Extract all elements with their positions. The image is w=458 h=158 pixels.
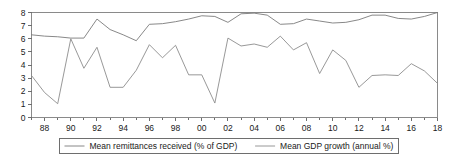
- x-tick-label: 06: [276, 123, 286, 133]
- y-tick-label: 1: [21, 99, 26, 109]
- x-tick-label: 02: [223, 123, 233, 133]
- y-tick-label: 8: [21, 8, 26, 18]
- y-tick-label: 6: [21, 34, 26, 44]
- x-tick-label: 12: [354, 123, 364, 133]
- y-tick-label: 7: [21, 21, 26, 31]
- x-tick-label: 96: [145, 123, 155, 133]
- chart-figure: 012345678 889092949698000204060810121416…: [0, 0, 458, 158]
- data-series-group: [32, 13, 438, 104]
- x-tick-label: 08: [302, 123, 312, 133]
- x-tick-label: 10: [328, 123, 338, 133]
- x-tick-label: 00: [197, 123, 207, 133]
- x-tick-label: 14: [380, 123, 390, 133]
- plot-frame: [32, 13, 438, 118]
- series-line-gdp-growth: [32, 36, 438, 104]
- line-chart: 012345678 889092949698000204060810121416…: [0, 0, 458, 158]
- legend-label-gdp-growth: Mean GDP growth (annual %): [280, 141, 393, 151]
- x-tick-label: 18: [433, 123, 443, 133]
- y-tick-label: 2: [21, 86, 26, 96]
- x-tick-label: 04: [249, 123, 259, 133]
- x-tick-label: 94: [118, 123, 128, 133]
- y-tick-label: 4: [21, 60, 26, 70]
- x-tick-label: 98: [171, 123, 181, 133]
- y-tick-label: 3: [21, 73, 26, 83]
- y-axis-ticks: 012345678: [21, 8, 32, 123]
- series-line-remittances: [32, 13, 438, 41]
- y-tick-label: 5: [21, 47, 26, 57]
- x-tick-label: 88: [40, 123, 50, 133]
- x-axis-ticks: 88909294969800020406081012141618: [32, 118, 443, 133]
- x-tick-label: 92: [92, 123, 102, 133]
- x-tick-label: 16: [407, 123, 417, 133]
- y-tick-label: 0: [21, 113, 26, 123]
- legend-label-remittances: Mean remittances received (% of GDP): [90, 141, 238, 151]
- x-tick-label: 90: [66, 123, 76, 133]
- chart-legend: Mean remittances received (% of GDP)Mean…: [60, 139, 399, 154]
